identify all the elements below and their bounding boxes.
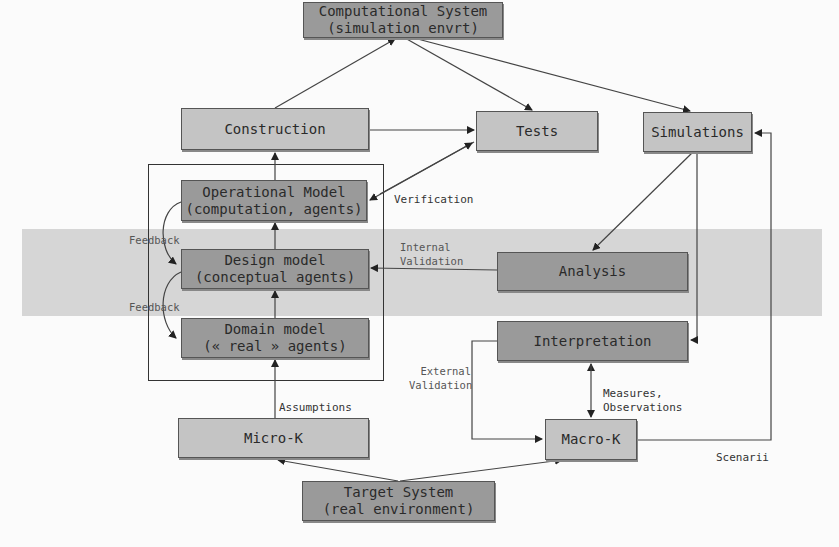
label-line: External xyxy=(409,364,471,378)
node-subtitle: (real environment) xyxy=(323,501,475,518)
analysis-node: Analysis xyxy=(497,252,688,291)
node-title: Target System xyxy=(344,484,454,501)
assumptions-label: Assumptions xyxy=(279,401,352,415)
node-subtitle: (simulation envrt) xyxy=(327,20,479,37)
connector-lines xyxy=(0,0,839,547)
node-title: Micro-K xyxy=(244,430,303,447)
node-subtitle: (« real » agents) xyxy=(203,338,346,355)
node-title: Design model xyxy=(224,252,325,269)
domain-model-node: Domain model (« real » agents) xyxy=(181,318,369,358)
verification-label: Verification xyxy=(394,193,473,207)
macro-k-node: Macro-K xyxy=(545,419,637,460)
scenarii-label: Scenarii xyxy=(716,451,769,465)
internal-validation-label: Internal Validation xyxy=(400,240,463,268)
tests-node: Tests xyxy=(476,111,598,151)
node-title: Simulations xyxy=(651,124,744,141)
feedback-lower-label: Feedback xyxy=(129,300,180,314)
node-title: Tests xyxy=(516,123,558,140)
label-line: Internal xyxy=(400,240,463,254)
micro-k-node: Micro-K xyxy=(178,418,369,458)
construction-node: Construction xyxy=(181,108,369,150)
node-title: Interpretation xyxy=(533,333,651,350)
computational-system-node: Computational System (simulation envrt) xyxy=(303,2,503,38)
node-title: Operational Model xyxy=(202,184,345,201)
node-title: Computational System xyxy=(319,3,488,20)
design-model-node: Design model (conceptual agents) xyxy=(181,249,369,289)
node-title: Domain model xyxy=(224,321,325,338)
measures-observations-label: Measures, Observations xyxy=(603,387,682,415)
label-line: Validation xyxy=(409,378,471,392)
feedback-upper-label: Feedback xyxy=(129,233,180,247)
label-line: Observations xyxy=(603,401,682,415)
external-validation-label: External Validation xyxy=(409,364,471,392)
target-system-node: Target System (real environment) xyxy=(302,481,495,521)
node-subtitle: (conceptual agents) xyxy=(195,269,355,286)
interpretation-node: Interpretation xyxy=(497,321,688,361)
operational-model-node: Operational Model (computation, agents) xyxy=(181,180,367,221)
node-title: Analysis xyxy=(559,263,626,280)
label-line: Validation xyxy=(400,254,463,268)
simulations-node: Simulations xyxy=(643,112,752,152)
node-title: Macro-K xyxy=(561,431,620,448)
node-title: Construction xyxy=(224,121,325,138)
label-line: Measures, xyxy=(603,387,682,401)
node-subtitle: (computation, agents) xyxy=(185,201,362,218)
